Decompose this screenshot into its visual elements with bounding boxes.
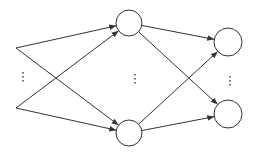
edge-h1-to-o1 [142, 25, 214, 39]
edge-in2-to-h1 [16, 31, 119, 108]
edge-h1-to-o2 [139, 32, 218, 105]
neural-network-diagram [0, 0, 254, 155]
input-ellipsis-dot [22, 72, 24, 74]
connection-edges [16, 25, 218, 130]
edge-in1-to-h1 [16, 26, 116, 48]
output-node-o1 [214, 28, 242, 56]
edge-in2-to-h2 [16, 108, 116, 130]
output-ellipsis-dot [229, 84, 231, 86]
hidden-ellipsis-dot [134, 74, 136, 76]
output-ellipsis-dot [229, 76, 231, 78]
edge-in1-to-h2 [16, 48, 119, 125]
hidden-ellipsis-dot [134, 82, 136, 84]
input-ellipsis-dot [22, 80, 24, 82]
hidden-node-h1 [116, 10, 142, 36]
output-node-o2 [214, 100, 242, 128]
edge-h2-to-o1 [139, 51, 218, 124]
output-ellipsis-dot [229, 80, 231, 82]
edge-h2-to-o2 [142, 117, 214, 131]
hidden-ellipsis-dot [134, 78, 136, 80]
input-ellipsis-dot [22, 76, 24, 78]
hidden-node-h2 [116, 120, 142, 146]
ellipsis-markers [22, 72, 231, 86]
